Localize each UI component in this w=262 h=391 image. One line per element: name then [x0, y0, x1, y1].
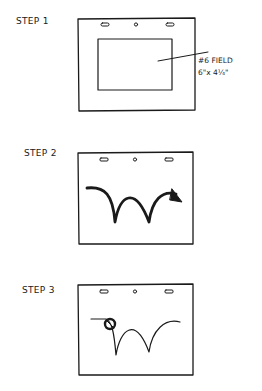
bounce-arrow-path	[87, 188, 176, 222]
leader-line	[158, 52, 208, 61]
tab-slot-left	[101, 23, 109, 26]
tab-hole-center	[133, 158, 136, 161]
tab-slot-right	[165, 290, 173, 293]
tab-slot-right	[165, 158, 173, 161]
tab-slot-left	[100, 158, 108, 161]
tab-slot-left	[100, 290, 108, 293]
step-1-frame	[78, 18, 208, 111]
tab-hole-center	[134, 23, 137, 26]
step-2-frame	[78, 152, 193, 244]
tab-slot-right	[166, 23, 174, 26]
field-rectangle	[98, 39, 172, 90]
arrow-head-icon	[170, 189, 182, 202]
step-3-frame	[78, 284, 193, 375]
tab-hole-center	[133, 290, 136, 293]
diagram-canvas	[0, 0, 262, 391]
